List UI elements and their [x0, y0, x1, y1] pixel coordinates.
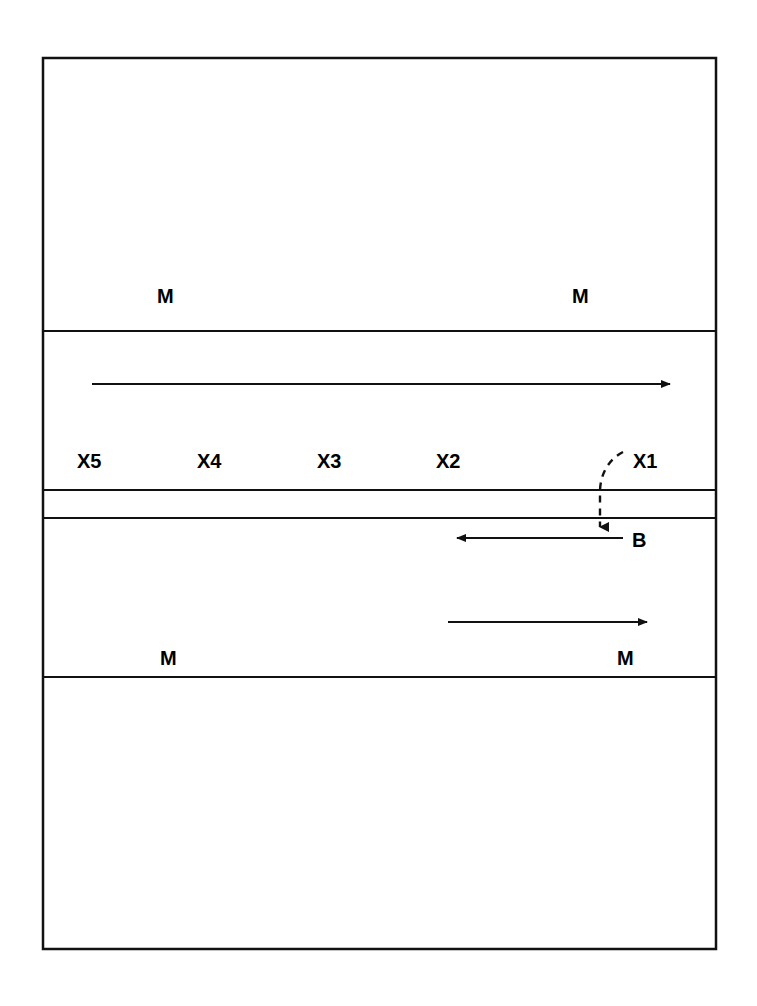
- m-label-top-right: M: [572, 285, 589, 307]
- x2-label: X2: [436, 450, 460, 472]
- x1-label: X1: [633, 450, 657, 472]
- figure-canvas: M M X5 X4 X3 X2 X1 B M M: [0, 0, 757, 1006]
- x4-label: X4: [197, 450, 222, 472]
- m-label-bottom-right: M: [617, 647, 634, 669]
- x3-label: X3: [317, 450, 341, 472]
- m-label-bottom-left: M: [160, 647, 177, 669]
- page-background: [0, 0, 757, 1006]
- b-label: B: [632, 529, 646, 551]
- schematic-diagram: M M X5 X4 X3 X2 X1 B M M: [0, 0, 757, 1006]
- m-label-top-left: M: [157, 285, 174, 307]
- x5-label: X5: [77, 450, 101, 472]
